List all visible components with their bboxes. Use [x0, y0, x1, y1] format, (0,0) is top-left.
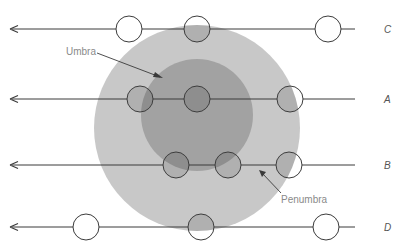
moon [315, 16, 341, 42]
eclipse-diagram: CABD Umbra Penumbra [0, 0, 401, 250]
track-A: A [10, 86, 391, 112]
moon [184, 86, 210, 112]
track-C: C [10, 16, 392, 42]
moon [73, 214, 99, 240]
track-D: D [10, 214, 391, 240]
track-label-D: D [384, 222, 391, 233]
moon [163, 152, 189, 178]
moon [188, 214, 214, 240]
penumbra-label: Penumbra [281, 194, 328, 205]
track-label-A: A [383, 94, 391, 105]
moon [184, 16, 210, 42]
umbra-label: Umbra [66, 46, 96, 57]
moon [313, 214, 339, 240]
moon [277, 86, 303, 112]
track-label-B: B [384, 160, 391, 171]
moon [215, 152, 241, 178]
moon [116, 16, 142, 42]
track-label-C: C [384, 24, 392, 35]
moon [127, 86, 153, 112]
moon [276, 152, 302, 178]
